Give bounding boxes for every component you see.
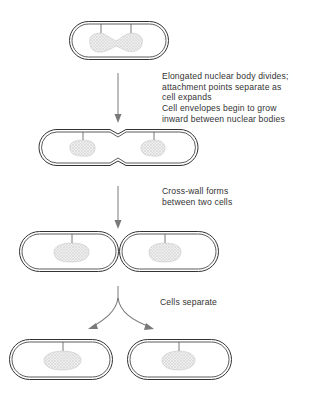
caption-step-4: Cells separate: [160, 297, 217, 308]
nucleoid-right: [149, 243, 181, 262]
cell-division-diagram: [0, 0, 312, 401]
caption-line: Cell envelopes begin to grow: [162, 103, 285, 114]
stage-3-cross-wall-cells: [20, 232, 219, 272]
cell-outer-wall: [39, 130, 198, 166]
caption-line: Elongated nuclear body divides;: [162, 71, 288, 82]
caption-step-3: Cross-wall forms between two cells: [162, 186, 232, 207]
caption-step-1: Elongated nuclear body divides; attachme…: [162, 71, 288, 103]
nucleoid-dividing: [90, 33, 143, 52]
stage-1-elongated-cell: [70, 22, 169, 60]
nucleoid-left: [54, 243, 89, 262]
arrow-split: [88, 286, 154, 330]
caption-line: Cross-wall forms: [162, 186, 232, 197]
arrow-down-1: [115, 73, 122, 123]
arrow-down-2: [115, 186, 122, 229]
nucleoid-right: [141, 140, 165, 156]
cell-inner-membrane: [41, 132, 195, 163]
nucleoid-left: [70, 140, 95, 156]
stage-2-constricting-cell: [39, 130, 198, 166]
stage-4-separated-cells: [10, 340, 232, 380]
nucleoid-left: [44, 351, 81, 370]
caption-line: Cells separate: [160, 297, 217, 308]
caption-step-2: Cell envelopes begin to grow inward betw…: [162, 103, 285, 124]
nucleoid-right: [162, 351, 195, 370]
caption-line: cell expands: [162, 92, 288, 103]
caption-line: between two cells: [162, 197, 232, 208]
caption-line: inward between nuclear bodies: [162, 114, 285, 125]
caption-line: attachment points separate as: [162, 82, 288, 93]
